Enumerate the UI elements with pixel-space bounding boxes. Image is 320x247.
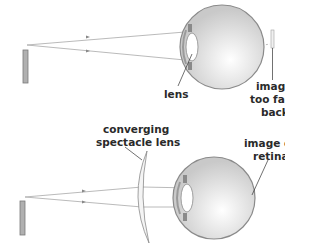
top-image: [271, 30, 274, 80]
retina-pointer: [252, 160, 268, 195]
top-object: [23, 50, 28, 83]
spectacle-pointer: [125, 147, 142, 160]
spectacle-label-2: spectacle lens: [96, 136, 180, 148]
image-too-far-label-3: back: [261, 106, 285, 118]
lens-label: lens: [164, 88, 188, 100]
spectacle-lens: [138, 151, 149, 243]
image-on-retina-label-1: image on: [244, 137, 285, 149]
bottom-object: [20, 201, 25, 235]
spectacle-label-1: converging: [103, 123, 169, 135]
image-on-retina-label-2: retina: [253, 150, 285, 162]
image-too-far-label-1: image: [256, 80, 285, 92]
bottom-eye: [173, 157, 255, 239]
top-eye: [180, 5, 264, 89]
image-too-far-label-2: too far: [250, 93, 285, 105]
arrow-icon: [86, 36, 90, 53]
